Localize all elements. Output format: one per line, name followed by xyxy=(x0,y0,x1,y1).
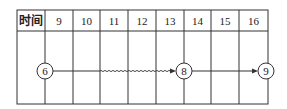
header-time-label: 时间 xyxy=(19,13,43,28)
tick-9: 9 xyxy=(56,15,62,27)
tick-10: 10 xyxy=(81,15,93,27)
time-scaled-network-diagram: 时间 9 10 11 12 13 14 15 16 6 8 9 xyxy=(0,0,287,109)
tick-14: 14 xyxy=(192,15,204,27)
node-8-label: 8 xyxy=(181,65,187,77)
tick-12: 12 xyxy=(137,15,148,27)
tick-13: 13 xyxy=(165,15,177,27)
arrowhead-into-9 xyxy=(252,69,258,74)
node-8: 8 xyxy=(176,63,192,79)
node-6: 6 xyxy=(37,63,53,79)
tick-11: 11 xyxy=(109,15,120,27)
edge-6-8-wavy xyxy=(100,70,172,71)
arrowhead-into-8 xyxy=(170,69,176,74)
tick-16: 16 xyxy=(248,15,260,27)
tick-15: 15 xyxy=(220,15,232,27)
node-6-label: 6 xyxy=(42,65,48,77)
node-9-label: 9 xyxy=(263,65,269,77)
node-9: 9 xyxy=(258,63,274,79)
